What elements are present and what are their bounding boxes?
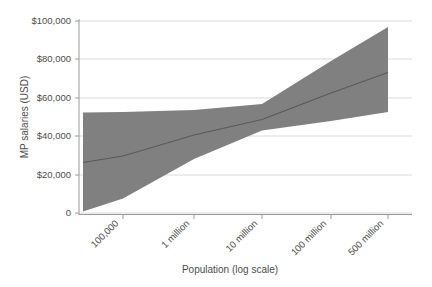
x-tick-label-1-million: 1 million: [159, 218, 191, 250]
chart-figure: $100,000 $80,000 $60,000 $40,000 $20,000…: [0, 0, 432, 287]
regression-band-chart: $100,000 $80,000 $60,000 $40,000 $20,000…: [0, 0, 432, 287]
x-tick-label-500-million: 500 million: [346, 218, 386, 258]
y-tick-label-40000: $40,000: [37, 130, 71, 141]
y-tick-label-100000: $100,000: [31, 15, 71, 26]
x-tick-label-10-million: 10 million: [223, 218, 259, 254]
y-tick-label-0: 0: [66, 207, 71, 218]
y-tick-label-60000: $60,000: [37, 92, 71, 103]
y-axis-ticks: [75, 21, 79, 213]
confidence-band: [83, 27, 388, 212]
y-axis-title: MP salaries (USD): [19, 76, 30, 159]
y-tick-label-20000: $20,000: [37, 169, 71, 180]
x-tick-label-100000: 100,000: [88, 218, 120, 250]
x-tick-label-100-million: 100 million: [289, 218, 329, 258]
x-axis-ticks: [123, 215, 388, 219]
y-tick-label-80000: $80,000: [37, 53, 71, 64]
x-axis-title: Population (log scale): [182, 264, 278, 275]
